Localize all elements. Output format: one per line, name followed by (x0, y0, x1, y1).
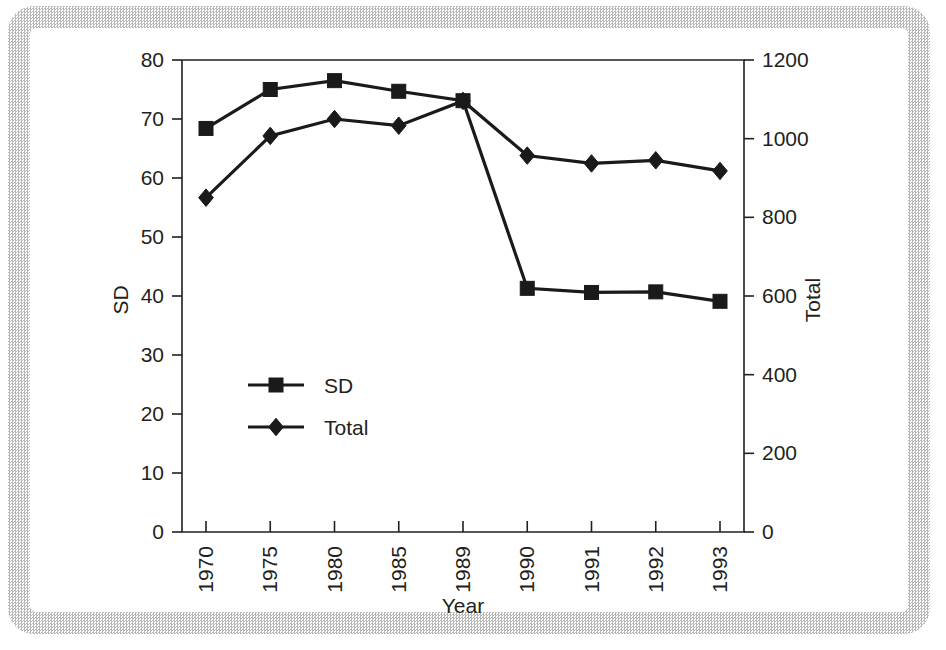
legend-item-total[interactable]: Total (248, 416, 368, 439)
diamond-marker-icon (584, 155, 599, 173)
square-marker-icon (199, 121, 213, 135)
square-marker-icon (392, 84, 406, 98)
x-axis-tick-labels: 197019751980198519891990199119921993 (194, 546, 731, 593)
square-marker-icon (585, 285, 599, 299)
diamond-marker-icon (391, 117, 406, 134)
series-layer (199, 74, 728, 309)
right-tick-label: 600 (762, 284, 797, 307)
right-tick-label: 200 (762, 441, 797, 464)
right-tick-label: 800 (762, 205, 797, 228)
x-axis-ticks (206, 521, 720, 532)
square-marker-icon (713, 294, 727, 308)
square-marker-icon (269, 378, 283, 392)
square-marker-icon (328, 74, 342, 88)
square-marker-icon (520, 281, 534, 295)
line-chart: 01020304050607080 020040060080010001200 … (0, 0, 946, 650)
x-tick-label: 1993 (708, 546, 731, 593)
left-tick-label: 10 (141, 461, 164, 484)
left-axis-tick-labels: 01020304050607080 (141, 48, 164, 543)
left-tick-label: 40 (141, 284, 164, 307)
right-tick-label: 1000 (762, 127, 809, 150)
right-axis-ticks (744, 60, 754, 532)
square-marker-icon (649, 285, 663, 299)
left-tick-label: 20 (141, 402, 164, 425)
x-tick-label: 1975 (258, 546, 281, 593)
left-tick-label: 60 (141, 166, 164, 189)
left-tick-label: 80 (141, 48, 164, 71)
diamond-marker-icon (648, 152, 663, 170)
right-axis-title: Total (801, 278, 824, 322)
right-tick-label: 1200 (762, 48, 809, 71)
x-tick-label: 1989 (451, 546, 474, 593)
left-axis-ticks (172, 60, 182, 532)
diamond-marker-icon (327, 110, 342, 128)
legend-label: Total (324, 416, 368, 439)
right-tick-label: 0 (762, 520, 774, 543)
x-axis-title: Year (442, 594, 484, 617)
legend-item-sd[interactable]: SD (248, 374, 353, 397)
x-tick-label: 1980 (323, 546, 346, 593)
left-tick-label: 50 (141, 225, 164, 248)
left-tick-label: 0 (152, 520, 164, 543)
x-tick-label: 1991 (580, 546, 603, 593)
chart-legend: SDTotal (248, 374, 368, 439)
left-tick-label: 30 (141, 343, 164, 366)
x-tick-label: 1970 (194, 546, 217, 593)
x-tick-label: 1992 (644, 546, 667, 593)
diamond-marker-icon (269, 418, 284, 436)
legend-label: SD (324, 374, 353, 397)
figure-container: 01020304050607080 020040060080010001200 … (0, 0, 946, 650)
series-path (206, 81, 720, 302)
series-path (206, 101, 720, 198)
left-axis-title: SD (109, 285, 132, 314)
right-tick-label: 400 (762, 363, 797, 386)
series-total (199, 92, 728, 206)
square-marker-icon (263, 83, 277, 97)
left-tick-label: 70 (141, 107, 164, 130)
diamond-marker-icon (713, 162, 728, 180)
x-tick-label: 1990 (515, 546, 538, 593)
x-tick-label: 1985 (387, 546, 410, 593)
